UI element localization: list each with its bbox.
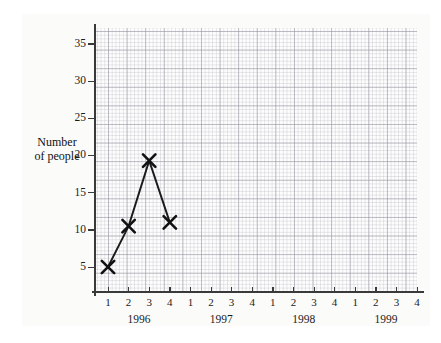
data-point-marker-1996-q4 xyxy=(164,216,176,228)
data-point-marker-1996-q3 xyxy=(143,154,155,166)
data-point-marker-1996-q2 xyxy=(122,220,134,232)
series-line xyxy=(108,161,170,267)
data-point-marker-1996-q1 xyxy=(102,261,114,273)
scanned-chart-page: Number of people 5101520253035 123412341… xyxy=(0,0,441,343)
series-layer xyxy=(0,0,441,343)
